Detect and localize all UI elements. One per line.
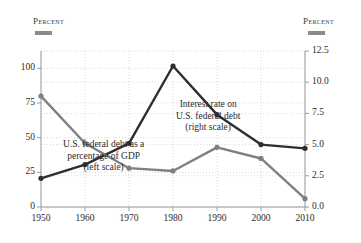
annotation-interest-line3: (right scale): [176, 122, 240, 134]
annotation-interest-line2: U.S. federal debt: [176, 111, 240, 123]
annotation-interest-line1: Interest rate on: [176, 99, 240, 111]
left-axis-tick-50: 50: [2, 132, 35, 142]
x-axis-tick-1950: 1950: [24, 213, 58, 223]
right-axis-tick-0.0: 0.0: [312, 201, 324, 211]
right-axis-tick-10.0: 10.0: [312, 76, 329, 86]
annotation-debt-line1: U.S. federal debt as a: [63, 139, 144, 151]
right-axis-tick-2.5: 2.5: [312, 170, 324, 180]
annotation-interest-rate: Interest rate on U.S. federal debt (righ…: [176, 99, 240, 134]
x-axis-tick-1970: 1970: [112, 213, 146, 223]
x-axis-tick-2000: 2000: [244, 213, 278, 223]
annotation-debt-line3: (left scale): [63, 162, 144, 174]
x-axis-tick-1960: 1960: [68, 213, 102, 223]
left-axis-tick-75: 75: [2, 97, 35, 107]
chart-figure: Percent Percent Interest rate on U.S. fe…: [0, 0, 361, 243]
right-axis-tick-5.0: 5.0: [312, 139, 324, 149]
annotation-federal-debt: U.S. federal debt as a percentage of GDP…: [63, 139, 144, 174]
right-axis-tick-7.5: 7.5: [312, 107, 324, 117]
x-axis-tick-1980: 1980: [156, 213, 190, 223]
annotation-debt-line2: percentage of GDP: [63, 151, 144, 163]
left-axis-tick-100: 100: [2, 62, 35, 72]
left-axis-tick-25: 25: [2, 166, 35, 176]
left-axis-tick-0: 0: [2, 201, 35, 211]
x-axis-tick-1990: 1990: [200, 213, 234, 223]
x-axis-tick-2010: 2010: [288, 213, 322, 223]
right-axis-tick-12.5: 12.5: [312, 45, 329, 55]
